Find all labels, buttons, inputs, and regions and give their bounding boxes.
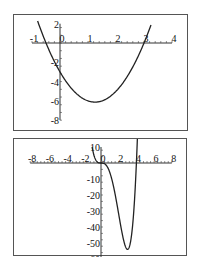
y-tick-label: -6 bbox=[51, 96, 59, 107]
x-tick-label: -4 bbox=[63, 153, 71, 164]
y-tick-label: 10 bbox=[90, 142, 100, 153]
y-tick-label: -50 bbox=[87, 238, 100, 249]
x-tick-label: -6 bbox=[46, 153, 54, 164]
plot-quadratic: -1012342-2-4-6-8 bbox=[13, 14, 188, 131]
x-tick-label: 2 bbox=[116, 33, 121, 44]
plot-quadratic-canvas: -1012342-2-4-6-8 bbox=[14, 15, 189, 132]
y-tick-label: -60 bbox=[87, 254, 100, 257]
x-tick-label: 6 bbox=[154, 153, 159, 164]
function-curve bbox=[38, 21, 151, 102]
y-tick-label: -40 bbox=[87, 222, 100, 233]
x-tick-label: -8 bbox=[28, 153, 36, 164]
x-tick-label: -1 bbox=[30, 33, 38, 44]
x-tick-label: 1 bbox=[88, 33, 93, 44]
x-tick-label: 0 bbox=[60, 33, 65, 44]
x-tick-label: 2 bbox=[118, 153, 123, 164]
y-tick-label: -30 bbox=[87, 206, 100, 217]
y-tick-label: 2 bbox=[54, 19, 59, 30]
plot-quartic-canvas: -8-6-4-20246810-10-20-30-40-50-60 bbox=[14, 139, 188, 257]
x-tick-label: -2 bbox=[81, 153, 89, 164]
y-tick-label: -4 bbox=[51, 77, 59, 88]
x-tick-label: 4 bbox=[172, 33, 177, 44]
plot-quartic: -8-6-4-20246810-10-20-30-40-50-60 bbox=[13, 138, 187, 256]
y-tick-label: -10 bbox=[87, 174, 100, 185]
y-tick-label: -20 bbox=[87, 190, 100, 201]
x-tick-label: 8 bbox=[171, 153, 176, 164]
y-tick-label: -8 bbox=[51, 115, 59, 126]
